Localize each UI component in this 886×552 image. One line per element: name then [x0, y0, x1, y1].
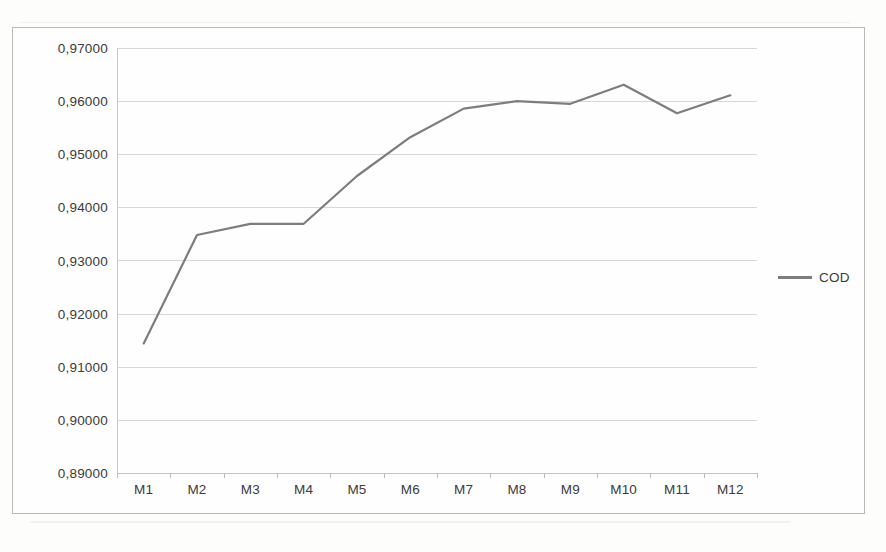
- gridline: [117, 367, 757, 368]
- y-axis-tick-label: 0,97000: [58, 41, 108, 56]
- x-axis-tick: [330, 473, 331, 478]
- x-axis-tick: [544, 473, 545, 478]
- y-axis-tick-label: 0,96000: [58, 94, 108, 109]
- y-axis-tick-label: 0,92000: [58, 306, 108, 321]
- page-background: 0,970000,960000,950000,940000,930000,920…: [0, 0, 886, 552]
- y-axis-tick-label: 0,91000: [58, 359, 108, 374]
- x-axis-tick: [277, 473, 278, 478]
- x-axis-tick: [170, 473, 171, 478]
- x-axis-tick-label: M6: [401, 482, 420, 497]
- x-axis-tick: [490, 473, 491, 478]
- x-axis-tick-label: M11: [664, 482, 690, 497]
- x-axis-tick-label: M3: [241, 482, 260, 497]
- x-axis-tick: [597, 473, 598, 478]
- x-axis-tick: [224, 473, 225, 478]
- x-axis-tick-label: M2: [187, 482, 206, 497]
- x-axis-tick: [384, 473, 385, 478]
- x-axis-tick-label: M9: [561, 482, 580, 497]
- x-axis-tick-label: M10: [610, 482, 637, 497]
- x-axis-tick: [704, 473, 705, 478]
- x-axis-tick: [650, 473, 651, 478]
- x-axis-tick-label: M12: [717, 482, 744, 497]
- y-axis-tick-label: 0,93000: [58, 253, 108, 268]
- y-axis-tick-label: 0,94000: [58, 200, 108, 215]
- x-axis-tick-label: M1: [134, 482, 153, 497]
- gridline: [117, 260, 757, 261]
- x-axis-tick: [117, 473, 118, 478]
- y-axis-tick-label: 0,95000: [58, 147, 108, 162]
- gridline: [117, 154, 757, 155]
- x-axis-tick-label: M8: [507, 482, 526, 497]
- x-axis-tick-label: M4: [294, 482, 313, 497]
- gridline: [117, 101, 757, 102]
- gridline: [117, 420, 757, 421]
- x-axis-tick-label: M7: [454, 482, 473, 497]
- y-axis-line: [117, 48, 118, 473]
- x-axis-tick: [757, 473, 758, 478]
- scan-artifact: [20, 22, 850, 23]
- y-axis-tick-label: 0,89000: [58, 466, 108, 481]
- y-axis-labels: 0,970000,960000,950000,940000,930000,920…: [0, 0, 108, 552]
- gridline: [117, 207, 757, 208]
- gridline: [117, 314, 757, 315]
- legend-line-swatch-cod: [778, 276, 812, 279]
- y-axis-tick-label: 0,90000: [58, 412, 108, 427]
- chart-legend: COD: [778, 270, 850, 285]
- legend-label-cod: COD: [819, 270, 850, 285]
- scan-artifact: [30, 521, 790, 523]
- x-axis-tick-label: M5: [347, 482, 366, 497]
- gridline: [117, 48, 757, 49]
- x-axis-tick: [437, 473, 438, 478]
